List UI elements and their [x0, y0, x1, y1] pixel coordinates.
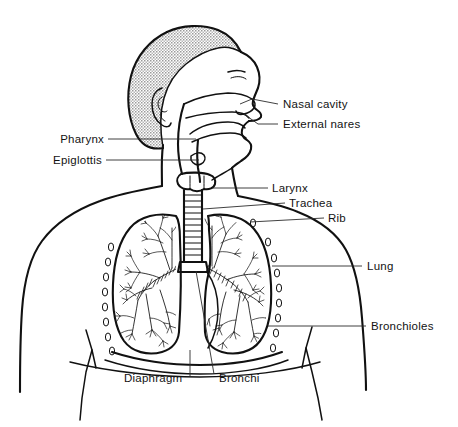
- larynx-structure: [177, 173, 215, 192]
- label-external-nares: External nares: [283, 118, 360, 130]
- leader-nasal-cavity: [240, 99, 278, 104]
- right-lung: [205, 211, 273, 354]
- torso-outline: [20, 145, 366, 420]
- label-bronchioles: Bronchioles: [371, 320, 434, 332]
- head-profile: [128, 26, 261, 168]
- respiratory-system-figure: Nasal cavity External nares Pharynx Epig…: [0, 0, 458, 427]
- diaphragm-structure: [105, 352, 288, 374]
- leader-trachea: [203, 203, 285, 209]
- label-nasal-cavity: Nasal cavity: [283, 98, 348, 110]
- label-lung: Lung: [367, 260, 394, 272]
- trachea-structure: [178, 190, 208, 272]
- anatomy-illustration: Nasal cavity External nares Pharynx Epig…: [0, 0, 458, 427]
- label-epiglottis: Epiglottis: [53, 154, 102, 166]
- label-trachea: Trachea: [289, 197, 333, 209]
- bronchial-tree-left: [113, 212, 180, 347]
- label-text-group: Nasal cavity External nares Pharynx Epig…: [53, 98, 434, 384]
- left-lung: [113, 212, 181, 354]
- label-rib: Rib: [328, 212, 346, 224]
- label-diaphragm: Diaphragm: [124, 372, 182, 384]
- trachea-rings: [184, 195, 202, 255]
- label-larynx: Larynx: [272, 182, 308, 194]
- bronchiole-tufts-left: [113, 212, 180, 347]
- leader-bronchi: [196, 271, 214, 374]
- label-bronchi: Bronchi: [219, 372, 260, 384]
- label-pharynx: Pharynx: [60, 133, 104, 145]
